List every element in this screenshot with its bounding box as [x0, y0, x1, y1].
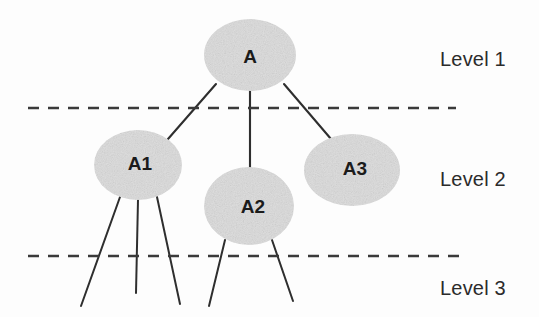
edge-a1-to-leaf-2 — [136, 200, 138, 293]
edge-a1-to-leaf-3 — [157, 197, 180, 304]
edge-a-to-a3 — [284, 84, 331, 139]
node-a2-label: A2 — [241, 196, 265, 217]
node-a1-label: A1 — [128, 153, 153, 174]
edge-a2-to-leaf-5 — [272, 240, 293, 301]
node-a3-label: A3 — [343, 158, 367, 179]
level-label-3: Level 3 — [440, 277, 506, 300]
node-a2[interactable]: A2 — [204, 167, 294, 245]
level-label-1: Level 1 — [440, 48, 506, 71]
node-a[interactable]: A — [204, 19, 296, 91]
edge-a2-to-leaf-4 — [209, 240, 225, 306]
edge-a-to-a1 — [168, 84, 216, 139]
node-a-label: A — [243, 46, 257, 67]
node-a3[interactable]: A3 — [304, 134, 400, 206]
level-label-2: Level 2 — [440, 168, 506, 191]
edge-a1-to-leaf-1 — [81, 197, 120, 306]
node-group: A A1 A2 A3 — [94, 19, 400, 245]
hierarchy-diagram: A A1 A2 A3 Level 1 Level 2 Level 3 — [0, 0, 539, 317]
node-a1[interactable]: A1 — [94, 130, 182, 200]
